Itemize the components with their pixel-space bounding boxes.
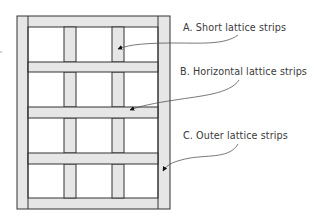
label-short-lattice-strips: A. Short lattice strips bbox=[183, 22, 286, 33]
label-horizontal-lattice-strips: B. Horizontal lattice strips bbox=[180, 66, 307, 77]
lattice-diagram bbox=[0, 0, 314, 222]
label-outer-lattice-strips: C. Outer lattice strips bbox=[183, 130, 288, 141]
stray-mark bbox=[0, 51, 2, 53]
leader-c bbox=[163, 144, 238, 171]
